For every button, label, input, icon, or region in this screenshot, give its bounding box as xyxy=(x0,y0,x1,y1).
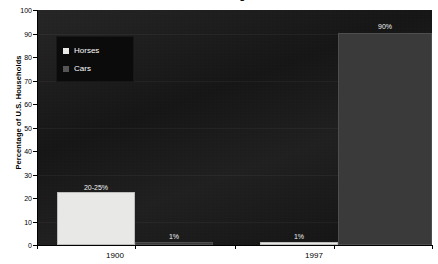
x-axis-label-1900: 1900 xyxy=(57,251,173,260)
legend-label-cars: Cars xyxy=(74,65,91,73)
x-axis-label-1997: 1997 xyxy=(256,251,372,260)
y-tick-label: 40 xyxy=(2,148,32,155)
x-tick-mark xyxy=(135,245,136,249)
bar-label-cars-1997: 90% xyxy=(338,23,432,31)
y-tick-label: 80 xyxy=(2,54,32,61)
y-tick-label: 60 xyxy=(2,101,32,108)
bar-horses-1900[interactable] xyxy=(57,192,135,245)
y-tick-label: 20 xyxy=(2,195,32,202)
bar-chart: Horses and Cars as a Percentage of U.S. … xyxy=(0,0,438,264)
x-tick-mark xyxy=(37,245,38,249)
y-tick-label: 50 xyxy=(2,124,32,131)
y-tick-label: 0 xyxy=(2,242,32,249)
chart-legend[interactable]: Horses Cars xyxy=(56,36,134,82)
chart-title: Horses and Cars as a Percentage of U.S. … xyxy=(0,0,438,1)
bar-label-horses-1997: 1% xyxy=(260,233,338,241)
y-axis-line xyxy=(37,10,38,246)
y-tick-label: 30 xyxy=(2,171,32,178)
x-tick-mark xyxy=(334,245,335,249)
y-tick-label: 90 xyxy=(2,30,32,37)
legend-swatch-icon-cars xyxy=(63,66,69,72)
y-tick-label: 10 xyxy=(2,218,32,225)
x-tick-mark xyxy=(432,245,433,249)
legend-item-cars[interactable]: Cars xyxy=(63,60,127,78)
y-tick-label: 70 xyxy=(2,77,32,84)
bar-label-horses-1900: 20-25% xyxy=(57,184,135,192)
y-axis-ticks: 100 90 80 70 60 50 40 30 20 10 0 xyxy=(0,0,38,264)
bar-label-cars-1900: 1% xyxy=(135,233,213,241)
bar-cars-1997[interactable] xyxy=(338,33,432,245)
y-tick-label: 100 xyxy=(2,7,32,14)
legend-label-horses: Horses xyxy=(74,47,99,55)
x-tick-mark xyxy=(235,245,236,249)
plot-area: 20-25% 1% 1% 90% Horses Cars xyxy=(38,10,432,245)
legend-item-horses[interactable]: Horses xyxy=(63,42,127,60)
legend-swatch-icon-horses xyxy=(63,48,69,54)
